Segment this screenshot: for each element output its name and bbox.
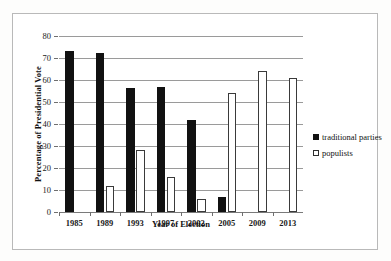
y-tick-label-80: 80 — [43, 31, 52, 41]
x-tick-1985 — [59, 212, 60, 216]
y-tick-0 — [54, 212, 58, 213]
bar-traditional-parties-2002 — [187, 120, 196, 212]
legend-item-populists[interactable]: populists — [313, 148, 391, 158]
y-tick-30 — [54, 146, 58, 147]
y-axis-title-label: Percentage of Presidential Vote — [33, 66, 43, 182]
bar-populists-2002 — [197, 199, 206, 212]
y-tick-label-70: 70 — [43, 53, 52, 63]
chart-legend: traditional partiespopulists — [313, 132, 391, 164]
gridline-80 — [59, 36, 303, 37]
bar-traditional-parties-1993 — [126, 88, 135, 212]
y-tick-label-60: 60 — [43, 75, 52, 85]
legend-label: populists — [322, 148, 353, 158]
bar-populists-1989 — [106, 186, 115, 212]
bar-populists-1997 — [167, 177, 176, 212]
legend-swatch-icon-traditional-parties — [313, 134, 319, 140]
bar-populists-1993 — [136, 150, 145, 212]
chart-figure: Percentage of Presidential Vote 01020304… — [0, 0, 391, 261]
y-tick-40 — [54, 124, 58, 125]
legend-item-traditional-parties[interactable]: traditional parties — [313, 132, 391, 142]
bar-traditional-parties-1997 — [157, 87, 166, 212]
bar-populists-2005 — [228, 93, 237, 212]
y-tick-label-50: 50 — [43, 97, 52, 107]
y-tick-60 — [54, 80, 58, 81]
bar-traditional-parties-2005 — [218, 197, 227, 212]
x-tick-2002 — [181, 212, 182, 216]
x-tick-2005 — [212, 212, 213, 216]
y-tick-label-40: 40 — [43, 119, 52, 129]
x-tick-2013 — [273, 212, 274, 216]
x-axis-title: Year of Election — [59, 219, 303, 229]
legend-label: traditional parties — [322, 132, 382, 142]
bar-populists-2009 — [258, 71, 267, 212]
plot-area: 0102030405060708019851989199319972002200… — [59, 36, 303, 212]
y-tick-70 — [54, 58, 58, 59]
y-tick-20 — [54, 168, 58, 169]
x-tick-1997 — [151, 212, 152, 216]
y-tick-label-30: 30 — [43, 141, 52, 151]
y-tick-label-0: 0 — [47, 207, 51, 217]
legend-swatch-icon-populists — [313, 150, 319, 156]
bar-traditional-parties-1985 — [65, 51, 74, 212]
x-tick-1993 — [120, 212, 121, 216]
y-tick-80 — [54, 36, 58, 37]
y-tick-label-20: 20 — [43, 163, 52, 173]
x-tick-2009 — [242, 212, 243, 216]
y-tick-label-10: 10 — [43, 185, 52, 195]
y-tick-10 — [54, 190, 58, 191]
y-tick-50 — [54, 102, 58, 103]
x-tick-1989 — [90, 212, 91, 216]
bar-populists-2013 — [289, 78, 298, 212]
chart-frame: Percentage of Presidential Vote 01020304… — [12, 13, 378, 250]
bar-traditional-parties-1989 — [96, 53, 105, 213]
